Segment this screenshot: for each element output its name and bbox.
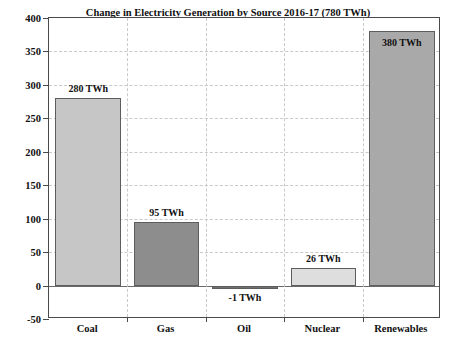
bar-value-label-nuclear: 26 TWh <box>306 253 341 264</box>
x-axis-label-coal: Coal <box>77 323 98 334</box>
y-tick-label: 50 <box>31 247 42 258</box>
gridline-vertical <box>206 18 207 317</box>
x-axis-label-oil: Oil <box>237 323 251 334</box>
bar-gas <box>134 222 199 286</box>
y-tick-label: 100 <box>25 213 41 224</box>
y-tick-mark <box>43 85 49 86</box>
y-tick-label: -50 <box>27 314 41 325</box>
bar-renewables <box>369 31 434 285</box>
y-tick-label: 150 <box>25 180 41 191</box>
y-tick-label: 250 <box>25 113 41 124</box>
bar-value-label-renewables: 380 TWh <box>382 37 422 48</box>
y-tick-label: 400 <box>25 13 41 24</box>
y-tick-mark <box>43 152 49 153</box>
bar-chart-figure: Change in Electricity Generation (TWh) C… <box>0 0 456 353</box>
bar-value-label-oil: -1 TWh <box>229 292 262 303</box>
plot-area: -50050100150200250300350400 280 TWh95 TW… <box>48 17 440 318</box>
y-tick-mark <box>43 118 49 119</box>
x-tick-mark <box>284 317 285 322</box>
x-tick-mark <box>363 317 364 322</box>
bar-value-label-gas: 95 TWh <box>149 207 184 218</box>
bar-nuclear <box>291 268 356 285</box>
y-tick-mark <box>43 286 49 287</box>
x-tick-mark <box>127 317 128 322</box>
x-tick-mark <box>206 317 207 322</box>
y-tick-label: 300 <box>25 79 41 90</box>
bar-coal <box>55 98 120 285</box>
gridline-vertical <box>127 18 128 317</box>
x-axis-label-gas: Gas <box>157 323 175 334</box>
y-tick-mark <box>43 18 49 19</box>
y-tick-mark <box>43 51 49 52</box>
x-axis-label-renewables: Renewables <box>374 323 427 334</box>
gridline-vertical <box>284 18 285 317</box>
y-tick-label: 200 <box>25 146 41 157</box>
y-tick-mark <box>43 319 49 320</box>
y-tick-label: 0 <box>36 280 41 291</box>
bar-value-label-coal: 280 TWh <box>68 83 108 94</box>
y-tick-mark <box>43 252 49 253</box>
gridline-vertical <box>363 18 364 317</box>
x-axis-label-nuclear: Nuclear <box>305 323 341 334</box>
bar-oil <box>212 286 277 289</box>
y-tick-mark <box>43 219 49 220</box>
y-tick-mark <box>43 185 49 186</box>
y-tick-label: 350 <box>25 46 41 57</box>
